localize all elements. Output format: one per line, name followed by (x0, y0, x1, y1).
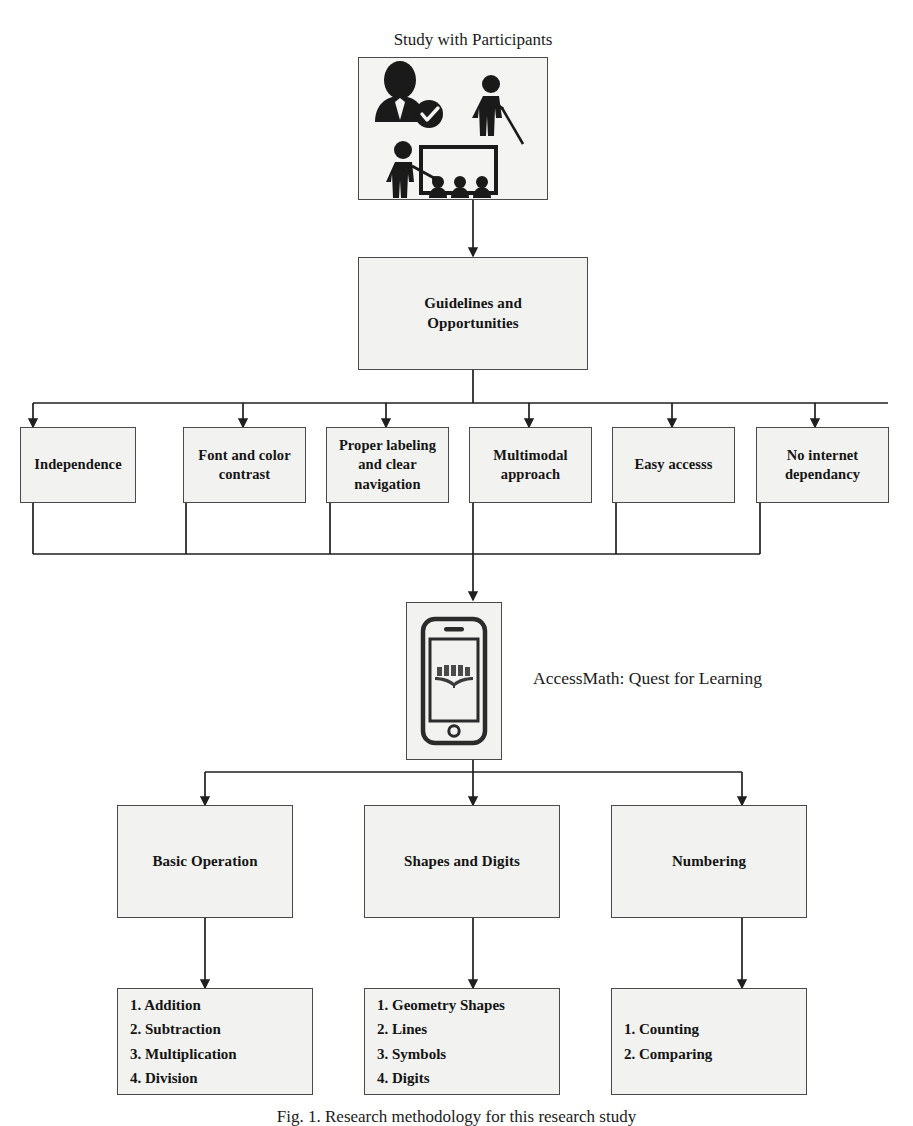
node-label-line1: Guidelines and (424, 295, 522, 311)
node-label-line2: Opportunities (427, 315, 518, 331)
list-item: 2. Comparing (624, 1042, 806, 1066)
node-label: No internet dependancy (779, 446, 866, 484)
node-label-line2: contrast (219, 466, 271, 482)
list-shapes-and-digits[interactable]: 1. Geometry Shapes 2. Lines 3. Symbols 4… (364, 988, 560, 1095)
node-basic-operation[interactable]: Basic Operation (117, 805, 293, 918)
list-item: 1. Addition (130, 993, 312, 1017)
figure-caption: Fig. 1. Research methodology for this re… (0, 1107, 913, 1126)
node-font-and-color-contrast[interactable]: Font and color contrast (183, 427, 306, 503)
node-guidelines-and-opportunities[interactable]: Guidelines and Opportunities (358, 257, 588, 370)
node-shapes-and-digits[interactable]: Shapes and Digits (364, 805, 560, 918)
node-label-line1: Font and color (198, 447, 290, 463)
node-label-line1: Proper labeling (339, 437, 436, 453)
node-label-line1: Multimodal (493, 447, 567, 463)
node-easy-access[interactable]: Easy accesss (612, 427, 735, 503)
node-numbering[interactable]: Numbering (611, 805, 807, 918)
node-label-line2: and clear (358, 456, 417, 472)
node-label: Numbering (666, 852, 752, 872)
list-basic-operation[interactable]: 1. Addition 2. Subtraction 3. Multiplica… (117, 988, 313, 1095)
node-multimodal-approach[interactable]: Multimodal approach (469, 427, 592, 503)
study-image-title: Study with Participants (313, 30, 633, 50)
node-label-line2: approach (501, 466, 560, 482)
participants-study-icon (358, 57, 548, 200)
list-item: 4. Division (130, 1066, 312, 1090)
list-item: 3. Multiplication (130, 1042, 312, 1066)
node-label: Font and color contrast (192, 446, 296, 484)
list-item: 1. Counting (624, 1017, 806, 1041)
list-item: 3. Symbols (377, 1042, 559, 1066)
node-label: Multimodal approach (487, 446, 573, 484)
node-independence[interactable]: Independence (20, 427, 136, 503)
list-item: 4. Digits (377, 1066, 559, 1090)
node-label: Independence (28, 455, 127, 474)
list-item: 1. Geometry Shapes (377, 993, 559, 1017)
list-item: 2. Lines (377, 1017, 559, 1041)
node-label-line3: navigation (354, 476, 420, 492)
node-label: Easy accesss (628, 455, 718, 474)
list-item: 2. Subtraction (130, 1017, 312, 1041)
smartphone-book-icon (406, 602, 502, 760)
list-numbering[interactable]: 1. Counting 2. Comparing (611, 988, 807, 1095)
node-label-line2: dependancy (785, 466, 860, 482)
figure-canvas: Study with Participants (0, 0, 913, 1126)
node-label: Proper labeling and clear navigation (333, 436, 442, 493)
node-label: Basic Operation (146, 852, 263, 872)
node-label: Guidelines and Opportunities (418, 294, 528, 334)
node-no-internet-dependancy[interactable]: No internet dependancy (756, 427, 889, 503)
app-name-label: AccessMath: Quest for Learning (533, 668, 762, 689)
node-proper-labeling-and-clear-navigation[interactable]: Proper labeling and clear navigation (326, 427, 449, 503)
node-label-line1: No internet (787, 447, 859, 463)
node-label: Shapes and Digits (398, 852, 526, 872)
